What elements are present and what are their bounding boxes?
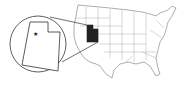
star-icon: ★: [33, 30, 38, 37]
utah-inset: ★: [10, 16, 66, 72]
us-map-locator: ★: [0, 0, 188, 91]
us-map: [74, 5, 176, 78]
